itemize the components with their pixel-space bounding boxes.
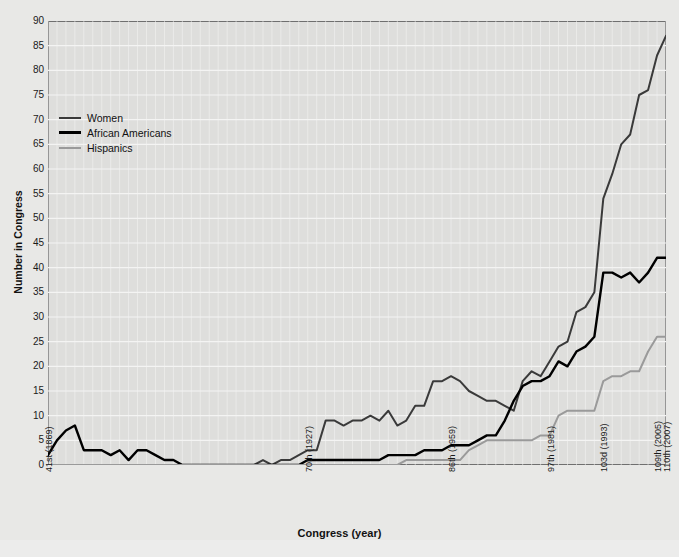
x-axis-tick-label: 103d (1993)	[599, 423, 609, 472]
y-axis-tick-label: 80	[4, 65, 44, 75]
y-axis-tick-label: 5	[4, 435, 44, 445]
y-axis-tick-label: 75	[4, 90, 44, 100]
y-axis-tick-label: 90	[4, 16, 44, 26]
y-axis-tick-label: 35	[4, 287, 44, 297]
chart-legend: WomenAfrican AmericansHispanics	[59, 110, 219, 155]
x-axis-tick-label: 110th (2007)	[662, 422, 672, 472]
legend-line-swatch	[59, 131, 81, 134]
y-axis-tick-label: 15	[4, 386, 44, 396]
data-series-layer	[48, 21, 666, 465]
x-axis-tick-label: 41st (1869)	[44, 426, 54, 472]
y-axis-tick-label: 40	[4, 263, 44, 273]
y-axis-tick-label: 65	[4, 139, 44, 149]
x-axis-tick-label: 86th (1959)	[447, 426, 457, 472]
y-axis-tick-label: 60	[4, 164, 44, 174]
y-axis-tick-label: 25	[4, 337, 44, 347]
plot-area	[48, 21, 666, 465]
legend-line-swatch	[59, 147, 81, 149]
y-axis-tick-label: 50	[4, 213, 44, 223]
y-axis-tick-label: 85	[4, 41, 44, 51]
y-axis-tick-label: 0	[4, 460, 44, 470]
x-axis-tick-label: 97th (1981)	[546, 426, 556, 472]
y-axis-tick-label: 20	[4, 361, 44, 371]
legend-item-label: Hispanics	[87, 142, 133, 154]
chart-figure: 051015202530354045505560657075808590 Num…	[0, 0, 679, 557]
legend-item-hispanics: Hispanics	[59, 140, 219, 155]
y-axis-title: Number in Congress	[12, 162, 24, 322]
legend-item-african-americans: African Americans	[59, 125, 219, 140]
paper-edge	[0, 540, 679, 557]
y-axis-tick-label: 10	[4, 411, 44, 421]
y-axis-tick-label: 55	[4, 189, 44, 199]
legend-item-label: Women	[87, 112, 123, 124]
y-axis-tick-label: 45	[4, 238, 44, 248]
y-axis-tick-label: 30	[4, 312, 44, 322]
x-axis-title: Congress (year)	[0, 527, 679, 539]
legend-line-swatch	[59, 117, 81, 119]
legend-item-label: African Americans	[87, 127, 172, 139]
x-axis-tick-label: 70th (1927)	[304, 426, 314, 472]
y-axis-tick-label: 70	[4, 115, 44, 125]
legend-item-women: Women	[59, 110, 219, 125]
